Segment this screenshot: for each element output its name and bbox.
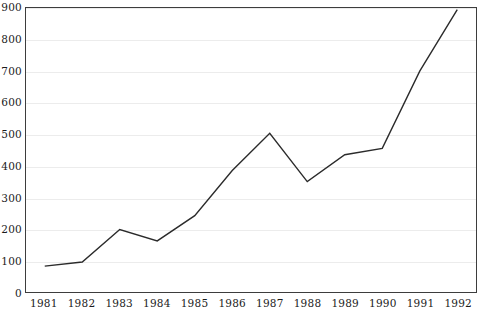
y-tick-label: 100 <box>0 256 22 267</box>
x-tick-label: 1992 <box>436 298 480 309</box>
y-tick-label: 500 <box>0 129 22 140</box>
y-tick-label: 200 <box>0 224 22 235</box>
y-tick-label: 0 <box>0 288 22 299</box>
y-tick-label: 900 <box>0 2 22 13</box>
y-tick-label: 700 <box>0 66 22 77</box>
y-tick-label: 800 <box>0 34 22 45</box>
plot-area <box>25 7 477 293</box>
y-tick-label: 400 <box>0 161 22 172</box>
series-line <box>45 10 458 267</box>
line-chart: 0100200300400500600700800900 19811982198… <box>0 0 493 317</box>
y-tick-label: 300 <box>0 193 22 204</box>
y-tick-label: 600 <box>0 97 22 108</box>
series-line-layer <box>26 8 476 292</box>
